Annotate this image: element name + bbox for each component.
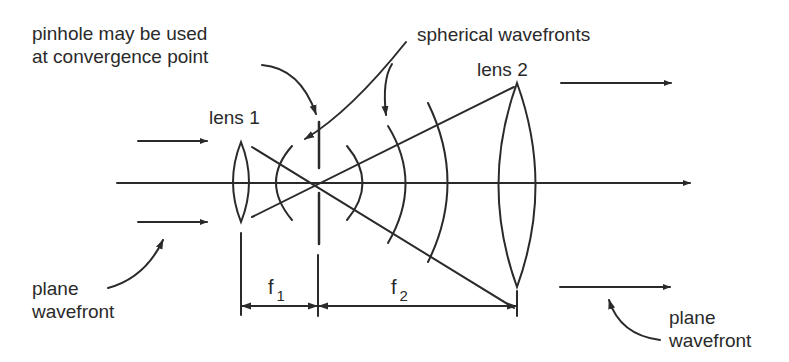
f2-label: f2 xyxy=(391,276,408,300)
incoming-ray-arrows xyxy=(138,141,207,222)
callout-arrows xyxy=(108,42,660,340)
ray-cone xyxy=(252,87,514,308)
pinhole-label-line2: at convergence point xyxy=(32,45,208,68)
f2-symbol: f xyxy=(391,276,397,298)
spherical-wavefronts-label: spherical wavefronts xyxy=(417,23,590,46)
plane-wavefront-left-label: plane wavefront xyxy=(32,277,114,323)
outgoing-ray-arrows xyxy=(560,83,671,287)
plane-wavefront-left-line1: plane xyxy=(32,277,114,300)
f1-label: f1 xyxy=(268,276,285,300)
plane-wavefront-right-label: plane wavefront xyxy=(669,306,751,352)
pinhole-label-line1: pinhole may be used xyxy=(32,22,208,45)
plane-wavefront-right-line2: wavefront xyxy=(669,329,751,352)
f1-subscript: 1 xyxy=(277,287,285,304)
plane-wavefront-left-line2: wavefront xyxy=(32,300,114,323)
f1-symbol: f xyxy=(268,276,274,298)
lens-2-label: lens 2 xyxy=(477,58,528,81)
pinhole-label: pinhole may be used at convergence point xyxy=(32,22,208,68)
lens-1-label: lens 1 xyxy=(209,106,260,129)
f2-subscript: 2 xyxy=(400,287,408,304)
plane-wavefront-right-line1: plane xyxy=(669,306,751,329)
lens-2-icon xyxy=(499,83,536,287)
